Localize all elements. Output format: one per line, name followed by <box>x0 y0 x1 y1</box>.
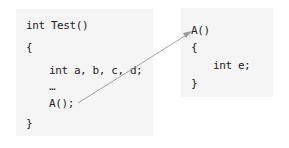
call-arrow-icon <box>0 0 289 148</box>
